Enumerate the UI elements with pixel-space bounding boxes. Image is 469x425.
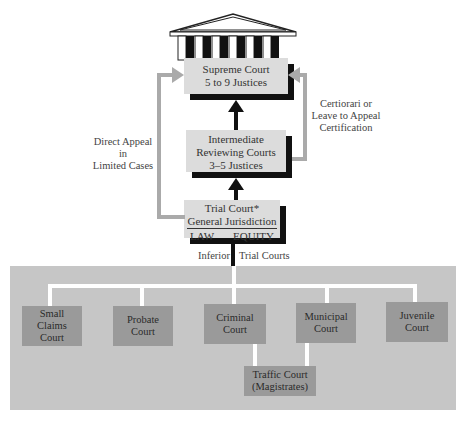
certiorari-line1: Certiorari or [308,98,384,110]
connector-line [48,284,52,308]
small-claims-court: Small Claims Court [22,306,82,346]
criminal-court: Criminal Court [204,304,266,344]
certiorari-label: Certiorari or Leave to Appeal Certificat… [308,98,384,134]
juvenile-court: Juvenile Court [386,302,448,342]
intermediate-justices: 3–5 Justices [186,159,286,172]
direct-appeal-line1: Direct Appeal [92,136,154,148]
direct-appeal-label: Direct Appeal in Limited Cases [92,136,154,172]
certiorari-line [292,157,307,161]
courthouse-icon [168,12,298,62]
arrow-right-icon [172,67,184,83]
arrow-up-icon [228,178,244,190]
court-line: Court [223,324,247,336]
court-line: Juvenile [400,310,435,322]
certiorari-line3: Certification [308,122,384,134]
direct-appeal-line [157,215,185,219]
direct-appeal-line3: Limited Cases [92,160,154,172]
arrow-left-icon [288,67,300,83]
arrow-up-icon [228,100,244,112]
trial-court-box: Trial Court* General Jurisdiction LAW EQ… [184,200,280,238]
law-label: LAW [190,230,214,243]
court-line: Traffic Court [252,369,307,381]
court-line: Criminal [216,312,253,324]
court-line: Small [40,308,65,320]
supreme-court-name: Supreme Court [184,63,288,76]
certiorari-line [303,73,307,161]
court-line: Probate [127,314,159,326]
court-line: Court [314,323,338,335]
municipal-court: Municipal Court [296,303,356,343]
traffic-court: Traffic Court (Magistrates) [244,366,316,396]
connector-line [140,284,144,308]
supreme-court-box: Supreme Court 5 to 9 Justices [184,58,288,94]
court-line: (Magistrates) [252,381,308,393]
court-line: Claims [37,320,67,332]
inferior-label: Inferior [190,250,230,262]
court-line: Municipal [304,311,347,323]
trial-courts-label: Trial Courts [239,250,299,262]
probate-court: Probate Court [113,306,173,346]
certiorari-line2: Leave to Appeal [308,110,384,122]
trial-jurisdiction: General Jurisdiction [187,215,277,229]
direct-appeal-line [157,73,161,219]
court-line: Court [405,322,429,334]
direct-appeal-line2: in [92,148,154,160]
intermediate-line1: Intermediate [186,133,286,146]
intermediate-line2: Reviewing Courts [186,146,286,159]
intermediate-court-box: Intermediate Reviewing Courts 3–5 Justic… [186,130,286,172]
trial-court-name: Trial Court* [184,202,280,215]
court-line: Court [131,326,155,338]
connector-line [231,244,235,268]
supreme-court-justices: 5 to 9 Justices [184,76,288,89]
court-line: Court [40,332,64,344]
equity-label: EQUITY [233,230,274,243]
